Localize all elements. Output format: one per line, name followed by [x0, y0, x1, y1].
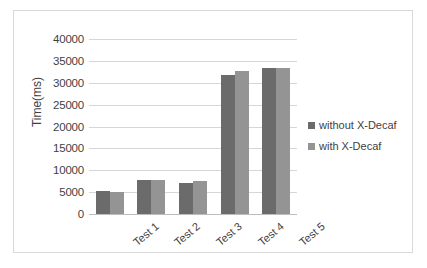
y-axis-tick-label: 0: [78, 208, 84, 220]
bar: [276, 68, 290, 214]
bar: [193, 181, 207, 214]
bar: [96, 191, 110, 214]
y-axis-tick-label: 35000: [53, 55, 84, 67]
y-axis-tick-label: 30000: [53, 77, 84, 89]
x-axis-tick-label: Test 2: [172, 220, 202, 248]
bar-group: [262, 39, 290, 214]
y-axis-tick-labels: 0500010000150002000025000300003500040000: [14, 39, 84, 214]
y-axis-tick-label: 5000: [59, 186, 84, 198]
legend-swatch-icon: [308, 122, 315, 129]
y-axis-tick-label: 40000: [53, 33, 84, 45]
legend-item: without X-Decaf: [308, 119, 418, 131]
plot-area: [89, 39, 297, 214]
x-axis-tick-labels: Test 1Test 2Test 3Test 4Test 5: [89, 216, 297, 266]
legend-item-label: with X-Decaf: [319, 140, 381, 152]
x-axis-tick-label: Test 5: [297, 220, 327, 248]
bar-group: [96, 39, 124, 214]
y-axis-tick-label: 25000: [53, 99, 84, 111]
bar: [137, 180, 151, 214]
bar-group: [137, 39, 165, 214]
y-axis-tick-label: 15000: [53, 142, 84, 154]
y-axis-tick-label: 10000: [53, 164, 84, 176]
bar: [179, 183, 193, 215]
chart-legend: without X-Decafwith X-Decaf: [308, 119, 418, 161]
legend-swatch-icon: [308, 143, 315, 150]
x-axis-tick-label: Test 4: [255, 220, 285, 248]
bar: [235, 71, 249, 214]
x-axis-tick-label: Test 3: [214, 220, 244, 248]
legend-item-label: without X-Decaf: [319, 119, 397, 131]
bar: [221, 75, 235, 214]
bar: [151, 180, 165, 214]
bar-group: [221, 39, 249, 214]
chart-frame: Time(ms) 0500010000150002000025000300003…: [13, 10, 413, 253]
gridline: [89, 214, 297, 215]
bar: [110, 192, 124, 214]
y-axis-tick-label: 20000: [53, 121, 84, 133]
bar-group: [179, 39, 207, 214]
legend-item: with X-Decaf: [308, 140, 418, 152]
bar: [262, 68, 276, 214]
x-axis-tick-label: Test 1: [131, 220, 161, 248]
